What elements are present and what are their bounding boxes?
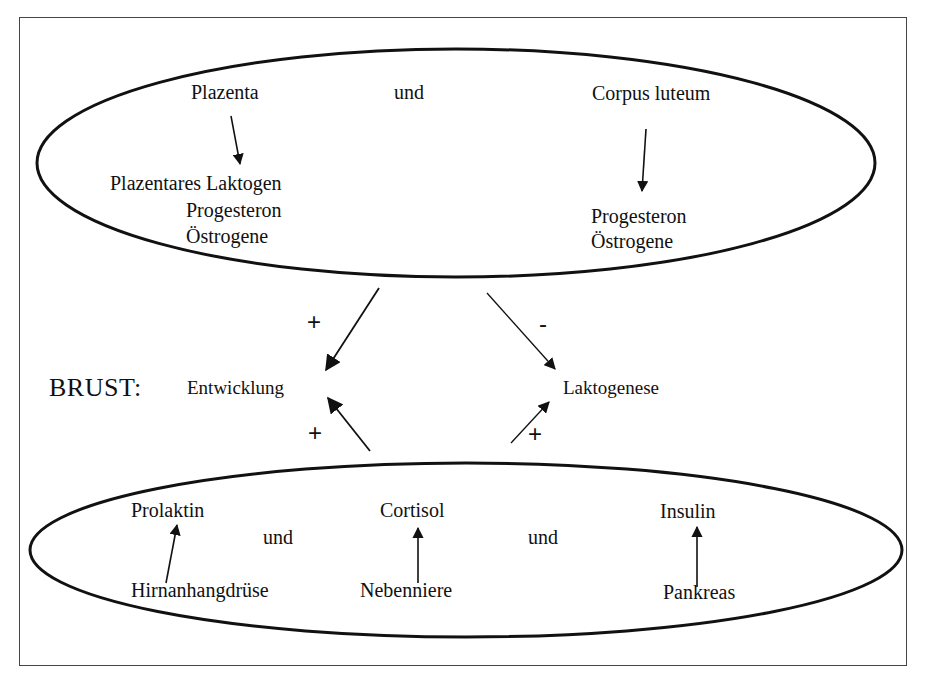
label-corpus-luteum: Corpus luteum — [592, 82, 710, 104]
label-und-top: und — [394, 81, 424, 103]
label-hirnanhangdruese: Hirnanhangdrüse — [131, 579, 269, 601]
sign-minus-top-right: - — [539, 312, 547, 336]
sign-plus-bottom-right: + — [528, 422, 542, 446]
label-brust: BRUST: — [49, 374, 142, 402]
label-plazentares-laktogen: Plazentares Laktogen — [110, 172, 282, 194]
label-progesteron-left: Progesteron — [186, 199, 282, 221]
label-nebenniere: Nebenniere — [360, 579, 452, 601]
top-hormone-ellipse — [37, 49, 875, 277]
label-und-bottom-1: und — [263, 526, 293, 548]
label-prolaktin: Prolaktin — [131, 499, 204, 521]
label-entwicklung: Entwicklung — [187, 377, 284, 399]
arrow-hirnanhangdruese-to-prolaktin — [166, 525, 177, 583]
label-plazenta: Plazenta — [191, 81, 259, 103]
arrow-plazenta-to-products — [231, 116, 240, 164]
label-cortisol: Cortisol — [380, 499, 444, 521]
bottom-hormone-ellipse — [30, 463, 902, 637]
label-insulin: Insulin — [660, 500, 716, 522]
arrow-top-to-entwicklung — [326, 288, 379, 370]
label-laktogenese: Laktogenese — [563, 377, 659, 399]
label-progesteron-right: Progesteron — [591, 205, 687, 227]
label-oestrogene-left: Östrogene — [186, 225, 268, 247]
label-oestrogene-right: Östrogene — [591, 230, 673, 252]
label-und-bottom-2: und — [528, 526, 558, 548]
sign-plus-bottom-left: + — [308, 421, 322, 445]
sign-plus-top-left: + — [307, 310, 321, 334]
arrow-bottom-to-entwicklung — [328, 398, 370, 451]
arrow-corpus-luteum-to-products — [642, 129, 646, 191]
label-pankreas: Pankreas — [663, 581, 735, 603]
